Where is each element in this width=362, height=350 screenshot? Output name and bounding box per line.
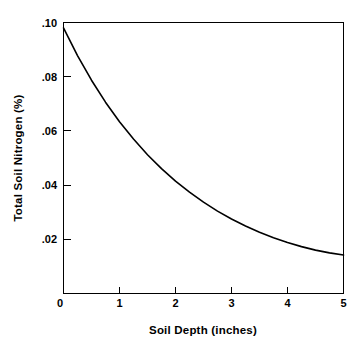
y-tick-label: .02 xyxy=(42,233,57,245)
chart-figure: .10 .08 .06 .04 .02 0 1 2 3 4 5 Soil Dep… xyxy=(0,0,362,350)
x-tick-label: 5 xyxy=(340,297,346,309)
x-axis-ticks xyxy=(120,287,288,294)
data-series-group xyxy=(64,28,344,255)
y-tick-label-origin: 0 xyxy=(57,297,63,309)
y-tick-label: .04 xyxy=(42,179,58,191)
y-tick-label: .10 xyxy=(42,17,57,29)
x-tick-label: 2 xyxy=(172,297,178,309)
x-axis-tick-labels: 1 2 3 4 5 xyxy=(116,297,346,309)
soil-nitrogen-decay-chart: .10 .08 .06 .04 .02 0 1 2 3 4 5 Soil Dep… xyxy=(0,0,362,350)
y-axis-ticks xyxy=(64,23,71,240)
x-tick-label: 3 xyxy=(228,297,234,309)
x-tick-label: 1 xyxy=(116,297,122,309)
y-axis-tick-labels: .10 .08 .06 .04 .02 0 xyxy=(42,17,63,310)
plot-frame xyxy=(64,23,344,294)
nitrogen-decay-curve xyxy=(64,28,344,255)
x-axis-title: Soil Depth (inches) xyxy=(149,324,257,336)
x-tick-label: 4 xyxy=(284,297,291,309)
y-tick-label: .06 xyxy=(42,125,57,137)
y-axis-title: Total Soil Nitrogen (%) xyxy=(12,94,24,221)
y-tick-label: .08 xyxy=(42,71,57,83)
